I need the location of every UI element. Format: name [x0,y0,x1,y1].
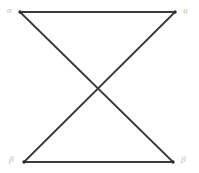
graph-canvas [0,0,199,173]
vertex-marker-top-left [18,10,21,13]
vertex-marker-top-right [173,10,176,13]
vertex-label-top-right: u [183,6,188,15]
edge-diagonal-up [24,12,175,162]
vertex-label-bottom-right: β [181,155,185,164]
vertex-marker-bottom-right [171,160,174,163]
edge-diagonal-down [20,12,173,162]
vertex-label-top-left: α [7,6,12,15]
vertex-label-bottom-left: β [9,155,13,164]
bowtie-diagram: α u β β [0,0,199,173]
vertex-marker-bottom-left [22,160,25,163]
edge-group [20,12,175,162]
